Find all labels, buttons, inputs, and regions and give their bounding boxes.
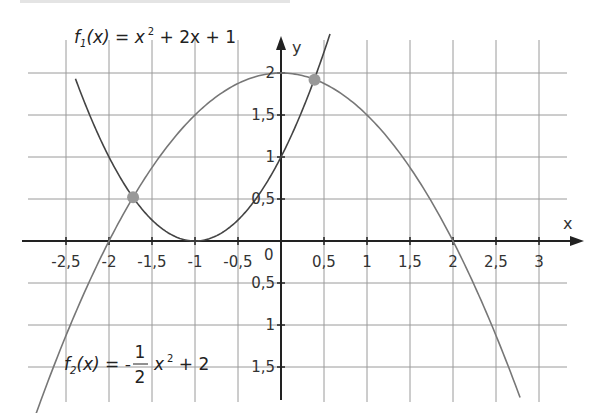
y-tick-label: 1 [265,316,275,334]
x-axis-label: x [563,214,572,233]
x-tick-label: 2,5 [484,253,508,271]
x-tick-label: 0,5 [312,253,336,271]
x-tick-label: 1 [362,253,372,271]
f1-formula-label: f1(x) = x2 + 2x + 1 [74,26,236,49]
x-axis-arrow-icon [570,236,584,246]
f2-denominator: 2 [135,367,146,387]
intersection-points [127,74,320,204]
intersection-point [127,191,139,203]
f1-rest: + 2x + 1 [154,27,236,47]
y-tick-label: 0,5 [251,190,275,208]
f1-arg: (x) = x [86,27,145,47]
y-tick-label: 2 [265,64,275,82]
x-tick-label: 1,5 [398,253,422,271]
svg-text:f2(x) = -: f2(x) = - [64,354,131,376]
x-tick-label: -0,5 [223,253,252,271]
intersection-point [309,74,321,86]
svg-text:x2 + 2: x2 + 2 [153,353,209,374]
tick-labels: -2,5-2-1,5-1-0,50,511,522,5321,510,50,51… [51,64,543,376]
y-tick-label: 1 [265,148,275,166]
f2-rest: + 2 [173,354,209,374]
f2-formula-label: f2(x) = - 1 2 x2 + 2 [64,342,209,387]
x-tick-label: 3 [534,253,544,271]
x-tick-label: -1 [188,253,203,271]
y-tick-label: 1,5 [251,106,275,124]
grid-lines [28,40,567,402]
y-axis-arrow-icon [276,36,286,50]
x-tick-label: -2,5 [51,253,80,271]
x-tick-label: 2 [448,253,458,271]
function-graph: -2,5-2-1,5-1-0,50,511,522,5321,510,50,51… [0,0,604,413]
tick-marks [66,73,539,367]
curve-f1 [75,34,330,241]
x-tick-label: -2 [102,253,117,271]
x-tick-label: -1,5 [137,253,166,271]
origin-label: 0 [264,246,274,264]
f2-numerator: 1 [135,342,146,362]
f2-var: x [153,354,165,374]
y-axis-label: y [292,38,301,57]
y-tick-label: 0,5 [251,274,275,292]
y-tick-label: 1,5 [251,358,275,376]
f2-arg: (x) = - [76,354,131,374]
